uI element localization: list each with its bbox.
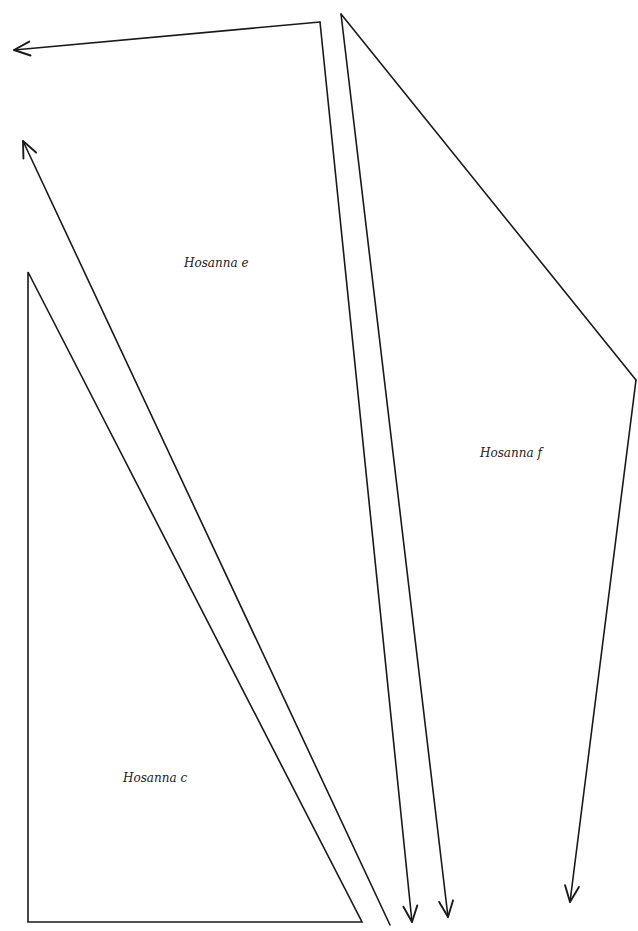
line-e-top bbox=[14, 22, 320, 50]
shapes-layer bbox=[14, 14, 636, 925]
label-hosanna-f: Hosanna f bbox=[480, 446, 542, 460]
line-f-diagonal bbox=[341, 14, 636, 380]
arrow-f-vertical bbox=[341, 14, 448, 917]
triangle-c bbox=[28, 272, 362, 922]
label-hosanna-c: Hosanna c bbox=[123, 771, 187, 785]
arrow-e-vertical bbox=[320, 22, 412, 922]
arrow-f-right bbox=[570, 380, 636, 902]
diagram-canvas bbox=[0, 0, 638, 931]
label-hosanna-e: Hosanna e bbox=[184, 256, 249, 270]
